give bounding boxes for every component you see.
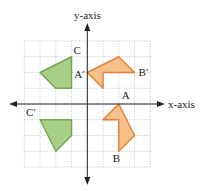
x-axis-label: x-axis bbox=[168, 98, 195, 110]
label-B: B bbox=[113, 152, 120, 164]
y-axis-down-arrow-icon bbox=[84, 177, 90, 185]
y-axis-up-arrow-icon bbox=[84, 23, 90, 31]
orange-shape-bottom bbox=[103, 104, 135, 151]
label-A-prime: A′ bbox=[74, 68, 84, 80]
orange-shape-top bbox=[87, 57, 134, 89]
label-B-prime: B′ bbox=[139, 66, 149, 78]
y-axis-label: y-axis bbox=[74, 9, 101, 21]
axes: x-axis y-axis bbox=[9, 9, 195, 185]
label-C: C bbox=[74, 44, 81, 56]
label-A: A bbox=[122, 89, 130, 101]
coordinate-plane-diagram: x-axis y-axis CA′B′ABC′ bbox=[0, 0, 207, 191]
x-axis-right-arrow-icon bbox=[157, 101, 165, 107]
x-axis-left-arrow-icon bbox=[9, 101, 17, 107]
label-C-prime: C′ bbox=[26, 106, 36, 118]
